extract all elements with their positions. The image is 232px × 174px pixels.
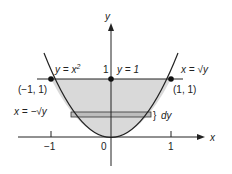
parabola-label: y = x2: [54, 63, 80, 75]
line-y1-label: y = 1: [116, 64, 139, 75]
point-1-1: [168, 76, 174, 82]
point-0-1: [108, 76, 114, 82]
region-diagram: y x −1 0 1 1 y = x2 y = 1 x = √y x = −√y…: [0, 0, 232, 174]
right-branch-label: x = √y: [180, 64, 209, 75]
x-tick-label-1: 1: [168, 141, 174, 152]
point-label-neg1-1: (−1, 1): [18, 84, 47, 95]
point-neg1-1: [48, 76, 54, 82]
x-axis-label: x: [209, 132, 216, 143]
x-axis-arrow-icon: [197, 134, 205, 140]
y-tick-label-1: 1: [103, 64, 109, 75]
dy-label: dy: [161, 110, 173, 121]
left-branch-label: x = −√y: [13, 106, 48, 117]
y-axis-arrow-icon: [108, 23, 114, 31]
x-tick-label-neg1: −1: [44, 141, 56, 152]
y-axis-label: y: [104, 11, 111, 22]
x-tick-label-0: 0: [101, 141, 107, 152]
point-label-1-1: (1, 1): [173, 84, 196, 95]
dy-brace-icon: }: [153, 110, 157, 121]
